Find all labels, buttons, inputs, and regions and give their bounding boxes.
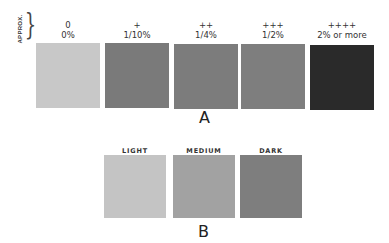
swatch-label: DARK	[240, 147, 302, 155]
swatch-b-1: MEDIUM	[173, 147, 235, 155]
swatch-b-1-color	[173, 155, 235, 218]
swatch-percent: 1/10%	[105, 30, 169, 40]
swatch-a-0-color	[36, 43, 100, 108]
swatch-symbol: ++	[174, 20, 238, 30]
swatch-symbol: +++	[241, 20, 305, 30]
swatch-b-0-color	[104, 155, 166, 218]
swatch-symbol: +	[105, 20, 169, 30]
swatch-b-2: DARK	[240, 147, 302, 155]
brace-icon: }	[25, 9, 36, 39]
approx-label: APPROX.	[17, 14, 23, 43]
swatch-a-1: + 1/10%	[105, 20, 169, 40]
swatch-symbol: 0	[36, 20, 100, 30]
panel-b-caption: B	[198, 222, 209, 241]
swatch-a-1-color	[105, 43, 169, 108]
swatch-symbol: ++++	[310, 20, 374, 30]
panel-a-caption: A	[199, 108, 210, 127]
swatch-b-2-color	[240, 155, 302, 218]
swatch-percent: 2% or more	[310, 30, 374, 40]
approx-bracket: APPROX.	[14, 14, 24, 48]
swatch-a-3-color	[241, 44, 305, 109]
swatch-a-4: ++++ 2% or more	[310, 20, 374, 40]
swatch-percent: 0%	[36, 30, 100, 40]
swatch-a-0: 0 0%	[36, 20, 100, 40]
swatch-percent: 1/4%	[174, 30, 238, 40]
swatch-a-2-color	[174, 44, 238, 109]
swatch-a-3: +++ 1/2%	[241, 20, 305, 40]
swatch-b-0: LIGHT	[104, 147, 166, 155]
swatch-percent: 1/2%	[241, 30, 305, 40]
swatch-label: MEDIUM	[173, 147, 235, 155]
swatch-a-4-color	[310, 45, 374, 110]
swatch-a-2: ++ 1/4%	[174, 20, 238, 40]
swatch-label: LIGHT	[104, 147, 166, 155]
